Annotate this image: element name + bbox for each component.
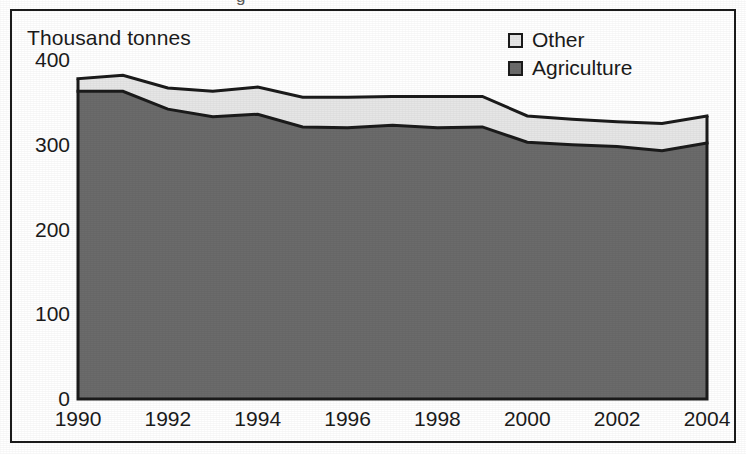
chart-figure: g Thousand tonnes Other Agriculture 0100… <box>0 0 746 454</box>
legend-swatch-other <box>508 33 523 48</box>
x-tick-1992: 1992 <box>144 407 191 431</box>
stacked-area-plot <box>78 60 707 399</box>
x-tick-1996: 1996 <box>324 407 371 431</box>
x-tick-2004: 2004 <box>684 407 731 431</box>
cropped-title-sliver: g <box>0 0 746 9</box>
y-tick-400: 400 <box>12 48 70 72</box>
y-tick-300: 300 <box>12 133 70 157</box>
x-tick-2000: 2000 <box>504 407 551 431</box>
x-tick-2002: 2002 <box>594 407 641 431</box>
x-tick-1994: 1994 <box>234 407 281 431</box>
cropped-title-fragment: g <box>236 0 245 7</box>
x-tick-1990: 1990 <box>55 407 102 431</box>
legend-label-other: Other <box>532 28 585 52</box>
plot-area <box>78 60 707 399</box>
y-tick-200: 200 <box>12 218 70 242</box>
y-tick-100: 100 <box>12 302 70 326</box>
x-tick-1998: 1998 <box>414 407 461 431</box>
x-axis-tick-labels: 19901992199419961998200020022004 <box>0 407 746 447</box>
y-axis-tick-labels: 0100200300400 <box>8 0 70 454</box>
legend-item-other[interactable]: Other <box>508 26 718 54</box>
